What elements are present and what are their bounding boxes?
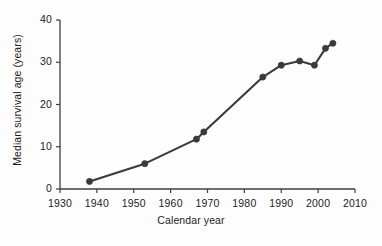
plot-area	[0, 0, 382, 246]
data-point-marker	[260, 74, 266, 80]
data-point-marker	[201, 129, 207, 135]
data-point-marker	[322, 45, 328, 51]
series-line	[90, 43, 333, 181]
chart-figure: Median survival age (years) 010203040 19…	[0, 0, 382, 246]
x-axis-label: Calendar year	[0, 214, 382, 226]
data-point-marker	[278, 62, 284, 68]
data-point-marker	[86, 178, 92, 184]
data-point-marker	[311, 62, 317, 68]
data-point-marker	[142, 161, 148, 167]
data-point-marker	[330, 40, 336, 46]
data-point-marker	[297, 58, 303, 64]
data-point-marker	[193, 136, 199, 142]
